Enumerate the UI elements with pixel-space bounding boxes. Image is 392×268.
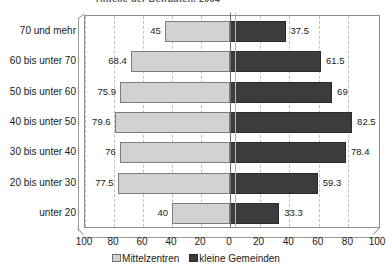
bar-value-label-right: 33.3 xyxy=(284,207,324,218)
category-axis: 70 und mehr60 bis unter 7050 bis unter 6… xyxy=(0,15,76,228)
bar-value-label-right: 37.5 xyxy=(291,25,331,36)
bar-kleine-gemeinden xyxy=(230,142,346,163)
category-label: 70 und mehr xyxy=(2,25,76,36)
bar-value-label-left: 75.9 xyxy=(76,86,116,97)
bar-mittelzentren xyxy=(131,51,230,72)
bar-kleine-gemeinden xyxy=(230,51,321,72)
chart-row: 79.682.5 xyxy=(85,112,379,133)
bar-kleine-gemeinden xyxy=(230,203,279,224)
floor-diagonal-left xyxy=(77,228,84,235)
bar-value-label-left: 77.5 xyxy=(74,177,114,188)
zero-line-depth xyxy=(235,13,236,227)
legend-swatch-icon xyxy=(112,254,121,262)
legend-label: kleine Gemeinden xyxy=(199,253,280,264)
axis-tick-label: 0 xyxy=(226,236,232,247)
axis-tick-label: 20 xyxy=(194,236,205,247)
legend-item[interactable]: kleine Gemeinden xyxy=(189,252,280,264)
bar-mittelzentren xyxy=(118,173,230,194)
bar-value-label-right: 69 xyxy=(337,86,377,97)
value-axis: 10080604020020406080100 xyxy=(0,236,392,250)
axis-tick-label: 80 xyxy=(342,236,353,247)
bar-kleine-gemeinden xyxy=(230,82,332,103)
chart-row: 77.559.3 xyxy=(85,173,379,194)
bar-mittelzentren xyxy=(165,21,230,42)
axis-tick-label: 100 xyxy=(76,236,93,247)
bar-mittelzentren xyxy=(172,203,230,224)
bar-value-label-left: 79.6 xyxy=(71,116,111,127)
bar-value-label-left: 68.4 xyxy=(87,55,127,66)
bar-value-label-right: 59.3 xyxy=(323,177,363,188)
chart-row: 4033.3 xyxy=(85,203,379,224)
chart-row: 7678.4 xyxy=(85,142,379,163)
axis-tick-label: 100 xyxy=(369,236,386,247)
chart-legend: Mittelzentrenkleine Gemeinden xyxy=(0,252,392,264)
chart-row: 4537.5 xyxy=(85,21,379,42)
axis-tick-label: 60 xyxy=(136,236,147,247)
bar-value-label-right: 82.5 xyxy=(357,116,392,127)
legend-item[interactable]: Mittelzentren xyxy=(112,252,179,264)
axis-tick-label: 80 xyxy=(107,236,118,247)
chart-row: 75.969 xyxy=(85,82,379,103)
bar-value-label-right: 61.5 xyxy=(326,55,366,66)
bar-value-label-left: 76 xyxy=(76,146,116,157)
category-label: 30 bis unter 40 xyxy=(2,146,76,157)
legend-swatch-icon xyxy=(189,254,198,262)
category-label: unter 20 xyxy=(2,207,76,218)
bar-value-label-right: 78.4 xyxy=(351,146,391,157)
chart-row: 68.461.5 xyxy=(85,51,379,72)
bar-value-label-left: 40 xyxy=(128,207,168,218)
zero-line xyxy=(230,13,231,227)
bar-mittelzentren xyxy=(120,82,230,103)
axis-tick-label: 60 xyxy=(312,236,323,247)
axis-tick-label: 40 xyxy=(283,236,294,247)
bar-kleine-gemeinden xyxy=(230,112,352,133)
floor-diagonal-right xyxy=(373,227,380,234)
axis-tick-label: 20 xyxy=(253,236,264,247)
chart-title-clipped: Anteile der Befragten, 2004 xyxy=(96,0,296,2)
category-label: 20 bis unter 30 xyxy=(2,177,76,188)
bar-mittelzentren xyxy=(120,142,230,163)
category-label: 40 bis unter 50 xyxy=(2,116,76,127)
bar-mittelzentren xyxy=(115,112,230,133)
category-label: 50 bis unter 60 xyxy=(2,86,76,97)
category-label: 60 bis unter 70 xyxy=(2,55,76,66)
plot-area: 4537.568.461.575.96979.682.57678.477.559… xyxy=(84,15,380,228)
bar-kleine-gemeinden xyxy=(230,21,286,42)
bidirectional-bar-chart: Anteile der Befragten, 2004 4537.568.461… xyxy=(0,0,392,268)
bar-kleine-gemeinden xyxy=(230,173,318,194)
bar-value-label-left: 45 xyxy=(121,25,161,36)
axis-tick-label: 40 xyxy=(165,236,176,247)
legend-label: Mittelzentren xyxy=(122,253,179,264)
